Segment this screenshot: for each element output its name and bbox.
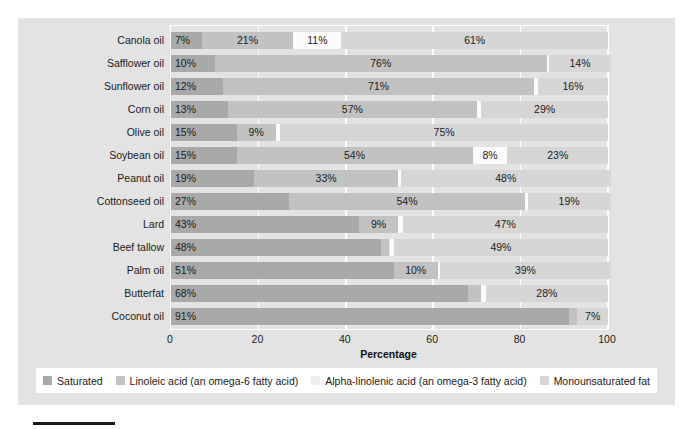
category-label: Peanut oil: [117, 167, 164, 190]
bar-row: Cottonseed oil27%54%Trace19%: [171, 190, 608, 213]
bar-segment: [237, 124, 276, 141]
x-tick-label: 20: [252, 333, 264, 345]
category-label: Canola oil: [117, 29, 164, 52]
caption-rule: [33, 422, 115, 425]
bar-segment: [171, 55, 215, 72]
legend-swatch-icon: [43, 376, 52, 385]
bar-segment: [289, 193, 525, 210]
bar-segment: [468, 285, 481, 302]
bar-segment: [171, 308, 569, 325]
bar-segment: [171, 147, 237, 164]
bar-row: Beef tallow48%2%1%49%: [171, 236, 608, 259]
x-tick-label: 40: [339, 333, 351, 345]
bar-row: Sunflower oil12%71%1%16%: [171, 75, 608, 98]
bar-row: Corn oil13%57%1%29%: [171, 98, 608, 121]
bar-row: Olive oil15%9%1%75%: [171, 121, 608, 144]
x-tick-label: 60: [426, 333, 438, 345]
bar-row: Palm oil51%10%Trace39%: [171, 259, 608, 282]
bar-row: Safflower oil10%76%Trace14%: [171, 52, 608, 75]
bar-row: Lard43%9%1%47%: [171, 213, 608, 236]
bar-segment: [401, 170, 611, 187]
legend-item[interactable]: Saturated: [43, 375, 103, 387]
bar-row: Canola oil7%21%11%61%: [171, 29, 608, 52]
x-tick-label: 100: [598, 333, 616, 345]
bar-segment: [440, 262, 610, 279]
bar-row: Peanut oil19%33%Trace48%: [171, 167, 608, 190]
legend-swatch-icon: [311, 376, 320, 385]
x-tick-label: 0: [167, 333, 173, 345]
bar-segment: [394, 262, 438, 279]
legend-item[interactable]: Alpha-linolenic acid (an omega-3 fatty a…: [311, 375, 526, 387]
bar-segment: [171, 78, 223, 95]
bar-segment: [171, 239, 381, 256]
bar-row: Coconut oil91%2%7%: [171, 305, 608, 328]
bar-segment: [486, 285, 608, 302]
category-label: Cottonseed oil: [97, 190, 164, 213]
bar-segment: [577, 308, 608, 325]
bar-segment: [293, 32, 341, 49]
bar-segment: [569, 308, 578, 325]
category-label: Sunflower oil: [104, 75, 164, 98]
caption-strip: [0, 420, 693, 429]
bar-segment: [507, 147, 608, 164]
category-label: Corn oil: [128, 98, 164, 121]
chart-figure: Canola oil7%21%11%61%Safflower oil10%76%…: [18, 18, 675, 405]
bar-segment: [228, 101, 477, 118]
bar-segment: [215, 55, 547, 72]
bar-segment: [237, 147, 473, 164]
legend-label: Alpha-linolenic acid (an omega-3 fatty a…: [325, 375, 526, 387]
legend-item[interactable]: Linoleic acid (an omega-6 fatty acid): [116, 375, 299, 387]
legend-label: Saturated: [57, 375, 103, 387]
x-tick-label: 80: [514, 333, 526, 345]
bar-segment: [171, 124, 237, 141]
bar-segment: [403, 216, 608, 233]
plot-area: Canola oil7%21%11%61%Safflower oil10%76%…: [170, 25, 609, 330]
bar-segment: [549, 55, 610, 72]
category-label: Soybean oil: [109, 144, 164, 167]
bar-segment: [473, 147, 508, 164]
bar-segment: [202, 32, 294, 49]
bar-segment: [171, 216, 359, 233]
bar-row: Butterfat68%3%1%28%: [171, 282, 608, 305]
legend-label: Monounsaturated fat: [554, 375, 650, 387]
category-label: Safflower oil: [107, 52, 164, 75]
legend-item[interactable]: Monounsaturated fat: [540, 375, 650, 387]
x-axis-title: Percentage: [170, 348, 607, 360]
bar-segment: [171, 285, 468, 302]
bar-segment: [528, 193, 611, 210]
bar-segment: [171, 262, 394, 279]
legend-label: Linoleic acid (an omega-6 fatty acid): [130, 375, 299, 387]
bar-row: Soybean oil15%54%8%23%: [171, 144, 608, 167]
legend-swatch-icon: [540, 376, 549, 385]
category-label: Palm oil: [127, 259, 164, 282]
bar-segment: [538, 78, 608, 95]
bar-segment: [171, 170, 254, 187]
category-label: Beef tallow: [113, 236, 164, 259]
bar-segment: [254, 170, 398, 187]
chart-legend: SaturatedLinoleic acid (an omega-6 fatty…: [36, 368, 657, 393]
bar-segment: [223, 78, 533, 95]
bar-segment: [381, 239, 390, 256]
bar-segment: [171, 101, 228, 118]
category-label: Lard: [143, 213, 164, 236]
bar-segment: [171, 32, 202, 49]
category-label: Butterfat: [124, 282, 164, 305]
legend-swatch-icon: [116, 376, 125, 385]
bar-segment: [171, 193, 289, 210]
bar-segment: [341, 32, 608, 49]
bar-segment: [280, 124, 608, 141]
bar-segment: [359, 216, 398, 233]
category-label: Coconut oil: [111, 305, 164, 328]
bar-segment: [394, 239, 608, 256]
category-label: Olive oil: [127, 121, 164, 144]
bar-segment: [481, 101, 608, 118]
